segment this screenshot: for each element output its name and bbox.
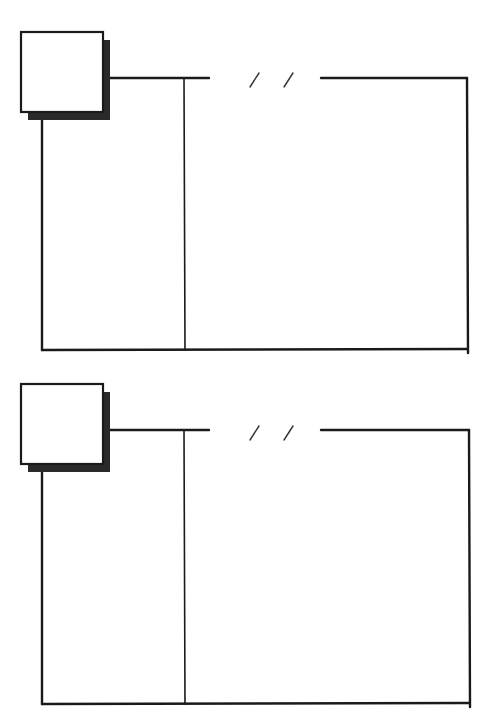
date-slash-1 (250, 426, 259, 440)
panel-bottom (21, 384, 470, 707)
photo-box (21, 32, 103, 112)
column-divider (184, 78, 185, 350)
date-slash-2 (284, 426, 293, 440)
frame-bottom-border (42, 703, 469, 704)
frame-bottom-border (42, 349, 467, 350)
column-divider (184, 430, 185, 704)
date-slash-1 (250, 73, 259, 87)
date-slash-2 (284, 73, 293, 87)
panel-top (21, 32, 468, 353)
sketch-template-canvas (0, 0, 484, 712)
photo-box (21, 384, 103, 464)
frame-right-border (467, 78, 468, 353)
frame-right-border (469, 430, 470, 707)
